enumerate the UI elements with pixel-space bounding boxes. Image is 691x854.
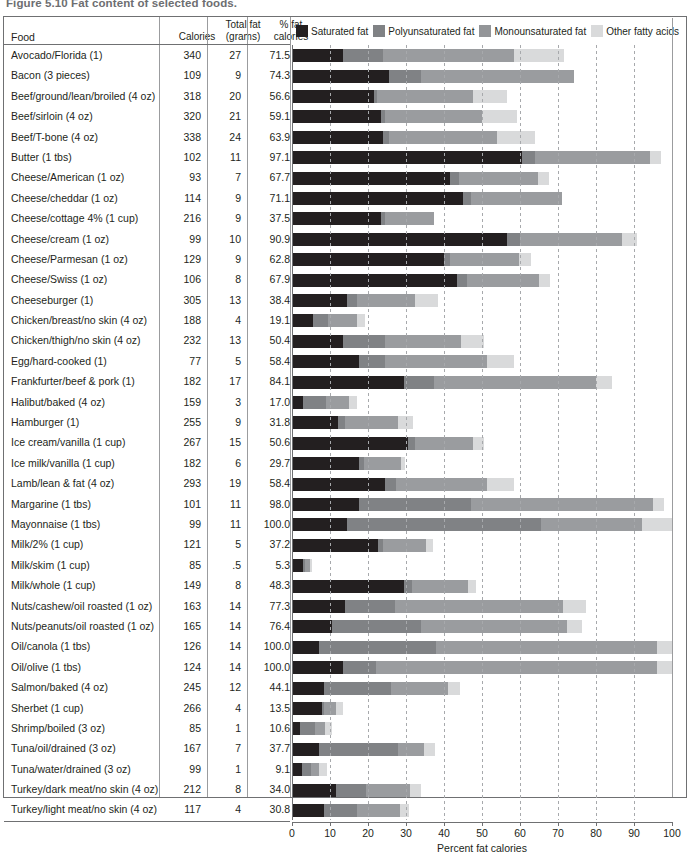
cell-pct-fat: 37.2 bbox=[255, 538, 290, 550]
cell-food: Turkey/dark meat/no skin (4 oz) bbox=[11, 783, 158, 795]
cell-calories: 99 bbox=[165, 518, 201, 530]
x-tick-50 bbox=[482, 822, 483, 826]
cell-food: Tuna/water/drained (3 oz) bbox=[11, 763, 131, 775]
table-row: Ice cream/vanilla (1 cup)2671550.6 bbox=[4, 432, 686, 452]
cell-calories: 99 bbox=[165, 233, 201, 245]
cell-food: Frankfurter/beef & pork (1) bbox=[11, 375, 135, 387]
cell-calories: 85 bbox=[165, 559, 201, 571]
cell-pct-fat: 19.1 bbox=[255, 314, 290, 326]
table-row: Frankfurter/beef & pork (1)1821784.1 bbox=[4, 371, 686, 391]
cell-calories: 266 bbox=[165, 702, 201, 714]
cell-total-fat: 14 bbox=[211, 661, 241, 673]
cell-total-fat: 8 bbox=[211, 273, 241, 285]
cell-total-fat: 7 bbox=[211, 171, 241, 183]
cell-pct-fat: 76.4 bbox=[255, 620, 290, 632]
table-row: Shrimp/boiled (3 oz)85110.6 bbox=[4, 718, 686, 738]
cell-total-fat: 11 bbox=[211, 151, 241, 163]
x-tick-40 bbox=[444, 822, 445, 826]
cell-calories: 99 bbox=[165, 763, 201, 775]
table-row: Cheese/cream (1 oz)991090.9 bbox=[4, 229, 686, 249]
table-row: Nuts/cashew/oil roasted (1 oz)1631477.3 bbox=[4, 596, 686, 616]
table-row: Mayonnaise (1 tbs)9911100.0 bbox=[4, 514, 686, 534]
table-row: Turkey/dark meat/no skin (4 oz)212834.0 bbox=[4, 779, 686, 799]
cell-pct-fat: 100.0 bbox=[255, 661, 290, 673]
cell-calories: 340 bbox=[165, 49, 201, 61]
cell-pct-fat: 37.5 bbox=[255, 212, 290, 224]
table-row: Ice milk/vanilla (1 cup)182629.7 bbox=[4, 453, 686, 473]
cell-pct-fat: 97.1 bbox=[255, 151, 290, 163]
cell-total-fat: 27 bbox=[211, 49, 241, 61]
table-row: Cheese/Swiss (1 oz)106867.9 bbox=[4, 269, 686, 289]
table-row: Cheese/Parmesan (1 oz)129962.8 bbox=[4, 249, 686, 269]
x-tick-100 bbox=[672, 822, 673, 826]
cell-total-fat: 10 bbox=[211, 233, 241, 245]
cell-pct-fat: 63.9 bbox=[255, 131, 290, 143]
cell-calories: 121 bbox=[165, 538, 201, 550]
cell-calories: 232 bbox=[165, 334, 201, 346]
cell-calories: 182 bbox=[165, 457, 201, 469]
cell-total-fat: 21 bbox=[211, 110, 241, 122]
x-tick-70 bbox=[558, 822, 559, 826]
cell-total-fat: 11 bbox=[211, 498, 241, 510]
cell-pct-fat: 29.7 bbox=[255, 457, 290, 469]
x-tick-label-80: 80 bbox=[581, 827, 611, 839]
cell-calories: 126 bbox=[165, 640, 201, 652]
cell-total-fat: 7 bbox=[211, 742, 241, 754]
x-tick-label-60: 60 bbox=[505, 827, 535, 839]
cell-calories: 216 bbox=[165, 212, 201, 224]
cell-food: Cheese/cream (1 oz) bbox=[11, 233, 109, 245]
x-tick-90 bbox=[634, 822, 635, 826]
cell-calories: 106 bbox=[165, 273, 201, 285]
cell-food: Chicken/breast/no skin (4 oz) bbox=[11, 314, 147, 326]
table-row: Milk/skim (1 cup)85.55.3 bbox=[4, 555, 686, 575]
legend-label: Monounsaturated fat bbox=[494, 26, 586, 37]
cell-food: Ice milk/vanilla (1 cup) bbox=[11, 457, 115, 469]
x-axis-label: Percent fat calories bbox=[292, 842, 672, 854]
cell-pct-fat: 62.8 bbox=[255, 253, 290, 265]
x-tick-10 bbox=[330, 822, 331, 826]
table-row: Chicken/breast/no skin (4 oz)188419.1 bbox=[4, 310, 686, 330]
cell-pct-fat: 10.6 bbox=[255, 722, 290, 734]
cell-food: Mayonnaise (1 tbs) bbox=[11, 518, 100, 530]
cell-calories: 109 bbox=[165, 69, 201, 81]
legend-swatch-icon bbox=[591, 25, 603, 37]
table-row: Cheeseburger (1)3051338.4 bbox=[4, 290, 686, 310]
cell-food: Oil/canola (1 tbs) bbox=[11, 640, 90, 652]
table-row: Halibut/baked (4 oz)159317.0 bbox=[4, 392, 686, 412]
cell-calories: 245 bbox=[165, 681, 201, 693]
table-row: Butter (1 tbs)1021197.1 bbox=[4, 147, 686, 167]
table-row: Oil/olive (1 tbs)12414100.0 bbox=[4, 657, 686, 677]
cell-food: Milk/2% (1 cup) bbox=[11, 538, 83, 550]
cell-total-fat: 8 bbox=[211, 783, 241, 795]
cell-food: Margarine (1 tbs) bbox=[11, 498, 91, 510]
cell-food: Chicken/thigh/no skin (4 oz) bbox=[11, 334, 141, 346]
cell-pct-fat: 100.0 bbox=[255, 518, 290, 530]
cell-total-fat: 5 bbox=[211, 538, 241, 550]
cell-food: Oil/olive (1 tbs) bbox=[11, 661, 81, 673]
figure-title: Figure 5.10 Fat content of selected food… bbox=[6, 0, 237, 9]
cell-food: Bacon (3 pieces) bbox=[11, 69, 90, 81]
cell-food: Turkey/light meat/no skin (4 oz) bbox=[11, 803, 157, 815]
cell-food: Cheese/cottage 4% (1 cup) bbox=[11, 212, 138, 224]
cell-total-fat: 14 bbox=[211, 600, 241, 612]
legend-label: Polyunsaturated fat bbox=[388, 26, 474, 37]
cell-calories: 293 bbox=[165, 477, 201, 489]
table-row: Tuna/water/drained (3 oz)9919.1 bbox=[4, 759, 686, 779]
cell-total-fat: 13 bbox=[211, 334, 241, 346]
cell-food: Milk/skim (1 cup) bbox=[11, 559, 90, 571]
cell-calories: 267 bbox=[165, 436, 201, 448]
table-row: Beef/sirloin (4 oz)3202159.1 bbox=[4, 106, 686, 126]
cell-calories: 159 bbox=[165, 396, 201, 408]
cell-total-fat: 9 bbox=[211, 253, 241, 265]
cell-total-fat: 12 bbox=[211, 681, 241, 693]
cell-food: Nuts/peanuts/oil roasted (1 oz) bbox=[11, 620, 154, 632]
cell-pct-fat: 44.1 bbox=[255, 681, 290, 693]
table-row: Sherbet (1 cup)266413.5 bbox=[4, 698, 686, 718]
cell-pct-fat: 48.3 bbox=[255, 579, 290, 591]
cell-total-fat: 5 bbox=[211, 355, 241, 367]
cell-food: Shrimp/boiled (3 oz) bbox=[11, 722, 105, 734]
cell-total-fat: 24 bbox=[211, 131, 241, 143]
x-tick-label-50: 50 bbox=[467, 827, 497, 839]
legend-item-1: Polyunsaturated fat bbox=[373, 25, 474, 37]
cell-total-fat: 4 bbox=[211, 803, 241, 815]
